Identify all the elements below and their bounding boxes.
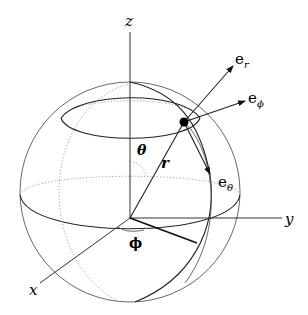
meridian-front (130, 82, 211, 302)
meridian-outer (184, 122, 211, 283)
y-axis-label: y (284, 210, 294, 228)
z-axis-label: z (124, 12, 133, 30)
e-r-label: er (235, 50, 250, 70)
meridian-back (59, 84, 128, 302)
e-phi-label: eϕ (248, 89, 264, 109)
theta-arc (130, 162, 146, 176)
spherical-coordinates-diagram: z y x θ ϕ r er eϕ eθ (0, 0, 308, 315)
phi-label: ϕ (129, 235, 142, 251)
theta-label: θ (137, 142, 147, 158)
x-axis-label: x (29, 281, 38, 299)
e-theta-label: eθ (218, 173, 233, 193)
e-theta-arrow (184, 122, 210, 174)
radius-label: r (161, 154, 170, 172)
point-marker (180, 118, 189, 127)
